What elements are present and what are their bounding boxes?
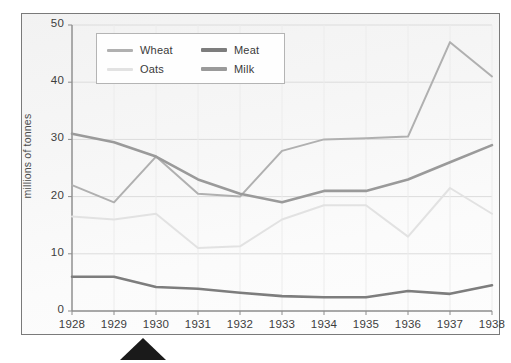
chart-legend: Wheat Oats Meat Milk xyxy=(96,33,285,84)
legend-label-oats: Oats xyxy=(140,63,164,75)
legend-swatch-milk xyxy=(201,67,227,71)
legend-swatch-wheat xyxy=(107,49,133,52)
legend-item-meat: Meat xyxy=(201,42,259,58)
chart-figure: millions of tonnes 01020304050 192819291… xyxy=(0,0,511,363)
legend-label-meat: Meat xyxy=(234,44,259,56)
legend-item-milk: Milk xyxy=(201,61,254,77)
year-marker-triangle xyxy=(120,338,166,360)
legend-label-milk: Milk xyxy=(234,63,254,75)
legend-swatch-meat xyxy=(201,48,227,52)
legend-item-oats: Oats xyxy=(107,61,164,77)
legend-label-wheat: Wheat xyxy=(140,44,173,56)
legend-swatch-oats xyxy=(107,68,133,71)
legend-item-wheat: Wheat xyxy=(107,42,173,58)
